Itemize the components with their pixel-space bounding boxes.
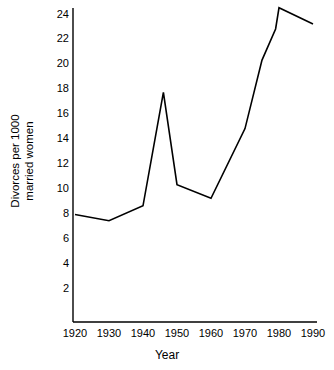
axes xyxy=(73,8,317,322)
data-series-line xyxy=(75,8,313,221)
plot-area xyxy=(0,0,334,370)
x-tick-label: 1990 xyxy=(293,328,333,339)
x-axis-tick-labels: 19201930194019501960197019801990 xyxy=(0,328,334,344)
chart-figure: Divorces per 1000 married women 24681012… xyxy=(0,0,334,370)
x-axis-label: Year xyxy=(0,348,334,362)
